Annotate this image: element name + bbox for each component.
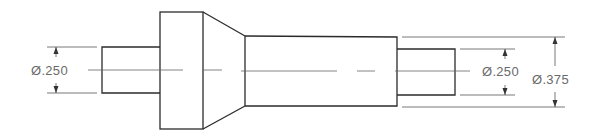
taper-section [203,12,245,129]
collar [160,12,203,129]
centerline [88,70,470,71]
left-diameter-label: Ø.250 [31,64,68,77]
right-shaft [397,49,455,95]
body-diameter-label: Ø.375 [532,73,569,86]
right-diameter-label: Ø.250 [482,65,519,78]
